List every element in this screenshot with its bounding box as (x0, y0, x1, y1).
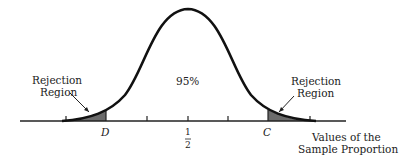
area-percent-label: 95% (176, 75, 199, 87)
axis-label-line2: Sample Proportion (298, 143, 398, 155)
critical-value-c: C (263, 126, 271, 138)
critical-value-d: D (101, 126, 109, 138)
axis-label-line1: Values of the (312, 131, 381, 143)
normal-curve (62, 9, 316, 121)
sampling-distribution-diagram: 95% Rejection Region Rejection Region D … (0, 0, 399, 161)
center-fraction-denominator: 2 (185, 140, 191, 150)
left-rejection-label-line2: Region (40, 86, 77, 98)
left-rejection-label-line1: Rejection (32, 74, 82, 86)
center-fraction-numerator: 1 (185, 127, 191, 137)
right-rejection-label-line2: Region (297, 87, 334, 99)
right-rejection-label-line1: Rejection (291, 75, 341, 87)
